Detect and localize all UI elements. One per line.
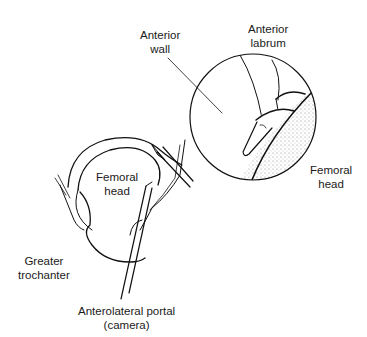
inset-view-circle: [190, 54, 320, 180]
label-anterolateral-portal: Anterolateral portal (camera): [78, 304, 175, 332]
hip-arthroscopy-diagram: Anterior wall Anterior labrum Femoral he…: [0, 0, 367, 337]
label-anterior-wall: Anterior wall: [140, 28, 180, 56]
label-greater-trochanter: Greater trochanter: [18, 254, 70, 282]
leader-anterior-wall: [168, 58, 222, 113]
label-anterior-labrum: Anterior labrum: [248, 22, 288, 50]
label-femoral-head-inset: Femoral head: [310, 163, 352, 191]
arthroscope-camera: [121, 182, 152, 299]
label-femoral-head-main: Femoral head: [96, 170, 138, 198]
hip-joint-drawing: [55, 138, 185, 262]
anterior-instrument: [157, 147, 193, 187]
